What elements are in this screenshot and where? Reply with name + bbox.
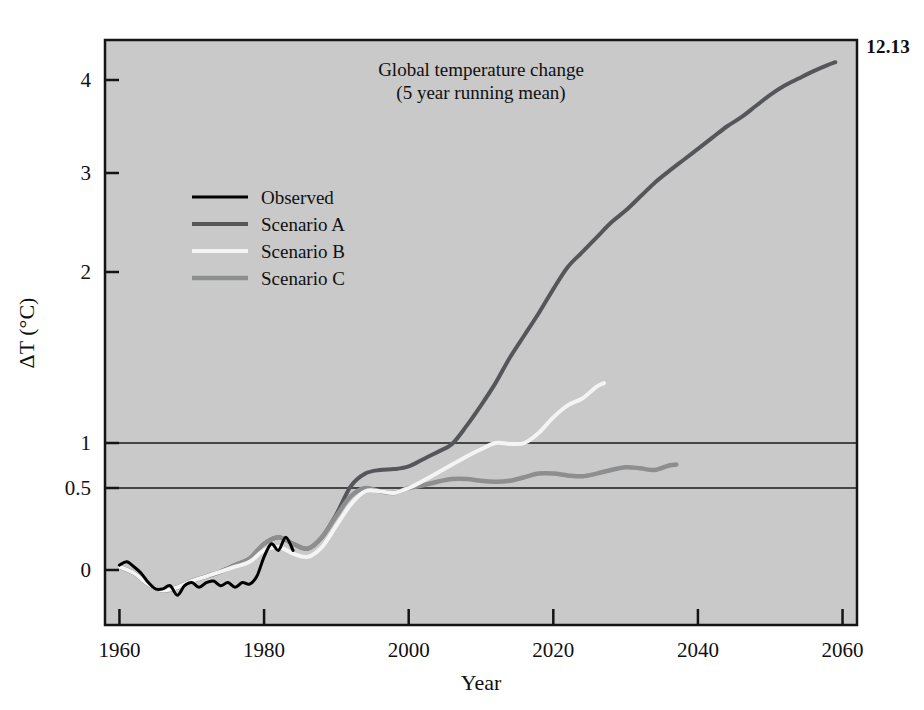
y-tick-label-0.5: 0.5 xyxy=(65,476,91,500)
legend-label-scenario-a: Scenario A xyxy=(261,214,345,235)
x-tick-label-2040: 2040 xyxy=(677,638,719,662)
y-tick-label-3: 3 xyxy=(81,161,92,185)
x-tick-label-2020: 2020 xyxy=(532,638,574,662)
y-axis-title: ΔT (°C) xyxy=(14,298,39,369)
y-tick-label-1: 1 xyxy=(81,431,92,455)
legend-label-scenario-b: Scenario B xyxy=(261,241,345,262)
x-tick-label-2060: 2060 xyxy=(822,638,864,662)
x-tick-label-1960: 1960 xyxy=(98,638,140,662)
legend-label-observed: Observed xyxy=(261,187,334,208)
y-tick-label-0: 0 xyxy=(81,558,92,582)
temperature-change-line-chart: 00.51234 196019802000202020402060 Year Δ… xyxy=(0,0,924,710)
y-tick-label-2: 2 xyxy=(81,260,92,284)
chart-title: Global temperature change xyxy=(378,59,584,80)
chart-subtitle: (5 year running mean) xyxy=(396,82,565,104)
plot-background xyxy=(105,40,857,625)
legend-label-scenario-c: Scenario C xyxy=(261,268,345,289)
y-tick-label-4: 4 xyxy=(81,68,92,92)
x-tick-label-1980: 1980 xyxy=(243,638,285,662)
figure-root: 12.13 00.51234 196019802000202020402060 … xyxy=(0,0,924,710)
x-axis-title: Year xyxy=(461,670,502,695)
x-tick-label-2000: 2000 xyxy=(388,638,430,662)
